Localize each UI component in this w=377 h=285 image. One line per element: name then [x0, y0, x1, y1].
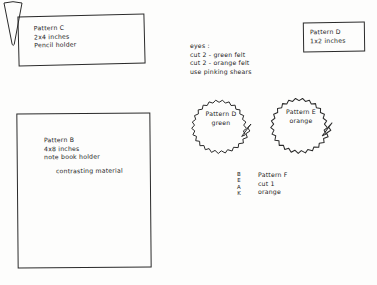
pattern-f-label: Pattern F cut 1 orange — [258, 171, 288, 197]
pattern-d-circle-label: Pattern D green — [197, 110, 245, 127]
pattern-c-label: Pattern C 2x4 inches Pencil holder — [34, 24, 77, 51]
pattern-b-material-note: contrasting material — [56, 167, 123, 176]
beak-vertical-label: B E A K — [234, 171, 244, 197]
pattern-e-circle-label: Pattern E orange — [277, 108, 325, 125]
pattern-b-label: Pattern B 4x8 inches note book holder — [44, 136, 100, 162]
eyes-instructions: eyes : cut 2 - green felt cut 2 - orange… — [190, 42, 252, 76]
pattern-d-label: Pattern D 1x2 inches — [310, 28, 346, 46]
sketch-page: Pattern C 2x4 inches Pencil holder Patte… — [0, 0, 377, 285]
